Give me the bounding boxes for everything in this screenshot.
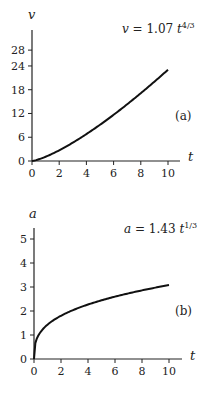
x-tick-label: 2 xyxy=(58,365,65,378)
x-tick-label: 10 xyxy=(162,365,176,378)
x-tick-label: 10 xyxy=(161,167,175,180)
y-tick-label: 18 xyxy=(11,84,25,97)
x-tick-label: 0 xyxy=(31,365,38,378)
x-axis-label: t xyxy=(190,348,196,363)
x-ticks: 0246810 xyxy=(31,359,177,378)
y-ticks: 0612182428 xyxy=(11,44,32,168)
acceleration-curve xyxy=(34,285,169,359)
panel-label: (b) xyxy=(175,304,192,318)
x-tick-label: 8 xyxy=(137,167,144,180)
x-axis-label: t xyxy=(188,149,194,164)
y-axis-label: v xyxy=(28,7,36,22)
x-tick-label: 4 xyxy=(83,167,90,180)
y-tick-label: 4 xyxy=(20,257,27,270)
y-tick-label: 0 xyxy=(18,155,25,168)
equation: v = 1.07 t4/3 xyxy=(122,21,195,36)
panel-label: (a) xyxy=(175,109,192,123)
y-tick-label: 2 xyxy=(20,305,27,318)
chart-acceleration: a t 012345 0246810 a = 1.43 t1/3 (b) xyxy=(20,206,197,378)
x-tick-label: 4 xyxy=(85,365,92,378)
y-tick-label: 0 xyxy=(20,353,27,366)
y-tick-label: 28 xyxy=(11,44,25,57)
x-ticks: 0246810 xyxy=(29,161,176,180)
y-tick-label: 5 xyxy=(20,233,27,246)
equation: a = 1.43 t1/3 xyxy=(124,221,197,236)
y-tick-label: 6 xyxy=(18,131,25,144)
y-tick-label: 12 xyxy=(11,107,25,120)
y-axis-label: a xyxy=(29,206,37,221)
y-tick-label: 3 xyxy=(20,281,27,294)
x-tick-label: 6 xyxy=(110,167,117,180)
x-tick-label: 6 xyxy=(112,365,119,378)
x-tick-label: 8 xyxy=(139,365,146,378)
x-tick-label: 0 xyxy=(29,167,36,180)
figure: v t 0612182428 0246810 v = 1.07 t4/3 (a)… xyxy=(0,0,210,397)
y-ticks: 012345 xyxy=(20,233,34,366)
y-tick-label: 1 xyxy=(20,329,27,342)
chart-velocity: v t 0612182428 0246810 v = 1.07 t4/3 (a) xyxy=(11,7,195,180)
velocity-curve xyxy=(32,70,168,161)
x-tick-label: 2 xyxy=(56,167,63,180)
y-tick-label: 24 xyxy=(11,60,25,73)
